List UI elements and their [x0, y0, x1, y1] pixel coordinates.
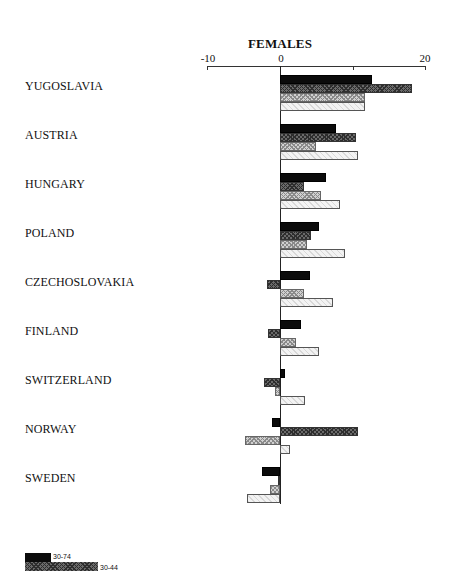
bar [280, 427, 358, 436]
bar [280, 191, 321, 200]
bar [280, 396, 305, 405]
x-tick [353, 66, 354, 70]
category-label: POLAND [25, 226, 74, 241]
legend-label: 30-74 [53, 553, 71, 560]
bar [280, 93, 365, 102]
x-tick-label: -10 [201, 52, 216, 64]
bar [280, 338, 296, 347]
category-label: FINLAND [25, 324, 78, 339]
bar [262, 467, 280, 476]
chart-title: FEMALES [0, 36, 457, 52]
bar [245, 436, 280, 445]
category-label: AUSTRIA [25, 128, 78, 143]
bar [280, 75, 372, 84]
bar [280, 200, 340, 209]
bar [270, 485, 280, 494]
bar [280, 249, 345, 258]
category-label: SWITZERLAND [25, 373, 111, 388]
category-label: NORWAY [25, 422, 77, 437]
bar [272, 418, 280, 427]
x-tick [207, 66, 208, 70]
bar [280, 445, 290, 454]
legend-swatch-30-44 [25, 562, 98, 571]
bar [280, 84, 412, 93]
bar [280, 347, 319, 356]
legend-swatch-30-74 [25, 553, 51, 562]
bar [280, 133, 356, 142]
category-label: HUNGARY [25, 177, 85, 192]
category-label: YUGOSLAVIA [25, 79, 103, 94]
bar [280, 298, 333, 307]
bar [280, 151, 358, 160]
bar [280, 289, 304, 298]
bar [267, 280, 280, 289]
bar [268, 329, 280, 338]
bar [280, 231, 311, 240]
bar [275, 387, 280, 396]
x-tick-label: 0 [278, 52, 284, 64]
bar [247, 494, 280, 503]
bar [280, 102, 365, 111]
bar [280, 320, 301, 329]
legend-label: 30-44 [100, 564, 118, 571]
bar [280, 182, 304, 191]
x-tick-label: 20 [420, 52, 431, 64]
bar [280, 173, 326, 182]
bar [264, 378, 280, 387]
bar [278, 476, 280, 485]
bar [280, 240, 307, 249]
bar [280, 222, 319, 231]
x-axis-line [207, 66, 426, 67]
bar [280, 142, 316, 151]
bar [280, 271, 310, 280]
bar [280, 124, 336, 133]
bar [280, 369, 285, 378]
x-tick [425, 66, 426, 70]
category-label: CZECHOSLOVAKIA [25, 275, 134, 290]
category-label: SWEDEN [25, 471, 76, 486]
